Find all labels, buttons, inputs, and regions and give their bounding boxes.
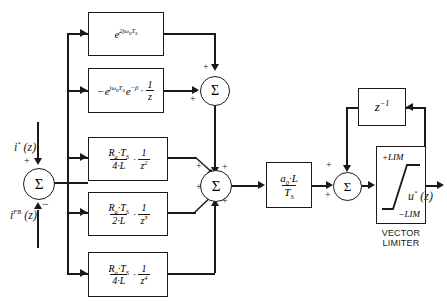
reference-input-arrow [34, 158, 42, 165]
neg-exp-jw0Ts-beta-block[interactable]: −ejω0TSe−β· 1z [88, 68, 164, 113]
branch3-out-line [168, 157, 196, 159]
output-arrow [437, 181, 444, 189]
delay-output-drop-line [346, 107, 348, 165]
sigma-glyph-main: Σ [212, 178, 221, 195]
upper-summer[interactable]: Σ [200, 76, 230, 106]
limiter-upper-label: +LIM [382, 152, 404, 162]
main-sum-plus-upper-left: + [196, 161, 202, 171]
branch2-arrow [80, 86, 87, 94]
branch4-arrow [80, 208, 87, 216]
ra-ts-over-4l-z4-block[interactable]: Ra·TS 4·L · 1z4 [88, 252, 168, 297]
branch4-one-over-z3: 1z3 [138, 202, 149, 226]
branch3-main-fraction: Ra·TS 4·L [106, 147, 131, 171]
main-sum-plus-bottom: + [222, 196, 228, 206]
output-sum-plus-left: + [325, 190, 331, 200]
gain-expression: a0·L TS [278, 172, 300, 198]
caption-line-1: VECTOR [366, 228, 436, 238]
output-summer[interactable]: Σ [333, 172, 362, 201]
sigma-glyph-upper: Σ [211, 83, 219, 99]
input-error-summer[interactable]: Σ [23, 168, 55, 200]
branch5-expression: Ra·TS 4·L · 1z4 [106, 263, 149, 287]
input-reference-text: i* (z) [14, 140, 36, 154]
output-sum-plus-top: + [326, 160, 332, 170]
reference-input-line [37, 122, 39, 158]
upper-sum-plus-left: + [190, 94, 196, 104]
output-sum-input-arrow [326, 181, 333, 189]
exp-2jw0Ts-block[interactable]: e2jω0TS [88, 12, 164, 56]
upper-sum-plus-top: + [203, 62, 209, 72]
branch1-out-line [164, 33, 215, 35]
branch1-arrow [80, 29, 87, 37]
branch3-expression: Ra·TS 4·L · 1z2 [106, 147, 149, 171]
caption-line-2: LIMITER [366, 238, 436, 248]
branch5-arrow [80, 269, 87, 277]
feedback-input-line [37, 210, 39, 248]
branch4-out-line [168, 212, 196, 214]
input-sum-minus-sign: − [42, 198, 49, 210]
branch2-expression: −ejω0TSe−β· 1z [97, 79, 154, 103]
distribution-bus-lower [67, 182, 69, 274]
branch3-one-over-z2: 1z2 [138, 147, 149, 171]
error-signal-line [53, 182, 88, 184]
sigma-glyph-output: Σ [344, 179, 352, 195]
output-label: u* (z) [408, 189, 433, 204]
sigma-glyph: Σ [35, 176, 44, 193]
branch1-into-sum-arrow [211, 64, 219, 71]
input-reference-label: i* (z) [14, 140, 36, 155]
input-feedback-text: iFB (z) [10, 208, 37, 222]
delay-input-arrow [406, 103, 413, 111]
block-diagram-canvas: i* (z) + Σ − iFB (z) e2jω0TS + −ejω0TSe−… [0, 0, 447, 308]
unit-delay-block[interactable]: z−1 [358, 88, 406, 126]
main-sum-plus-lower-left: + [196, 182, 202, 192]
main-sum-plus-top: + [222, 162, 228, 172]
exp-2jw0Ts-expression: e2jω0TS [114, 28, 137, 40]
gain-a0-l-over-ts-block[interactable]: a0·L TS [266, 162, 312, 208]
gain-input-arrow [258, 181, 265, 189]
branch1-drop-line [214, 33, 216, 65]
output-text: u* (z) [408, 189, 433, 203]
branch4-expression: Ra·TS 2·L · 1z3 [106, 202, 149, 226]
branch5-out-line [168, 273, 215, 275]
branch4-main-fraction: Ra·TS 2·L [106, 202, 131, 226]
input-sum-plus-sign: + [24, 156, 30, 166]
vector-limiter-caption: VECTOR LIMITER [366, 228, 436, 249]
ra-ts-over-2l-z3-block[interactable]: Ra·TS 2·L · 1z3 [88, 192, 168, 236]
limiter-input-arrow [368, 181, 375, 189]
branch3-arrow [80, 153, 87, 161]
delay-into-output-sum-arrow [343, 165, 351, 172]
branch5-one-over-z4: 1z4 [138, 263, 149, 287]
ra-ts-over-4l-z2-block[interactable]: Ra·TS 4·L · 1z2 [88, 137, 168, 181]
delay-expression: z−1 [375, 99, 389, 115]
limiter-lower-label: −LIM [398, 209, 420, 219]
input-feedback-label: iFB (z) [10, 208, 37, 223]
distribution-bus-upper [67, 33, 69, 182]
branch5-main-fraction: Ra·TS 4·L [106, 263, 131, 287]
branch2-one-over-z: 1z [146, 79, 155, 103]
vector-limiter-block[interactable]: +LIM −LIM [376, 146, 426, 224]
